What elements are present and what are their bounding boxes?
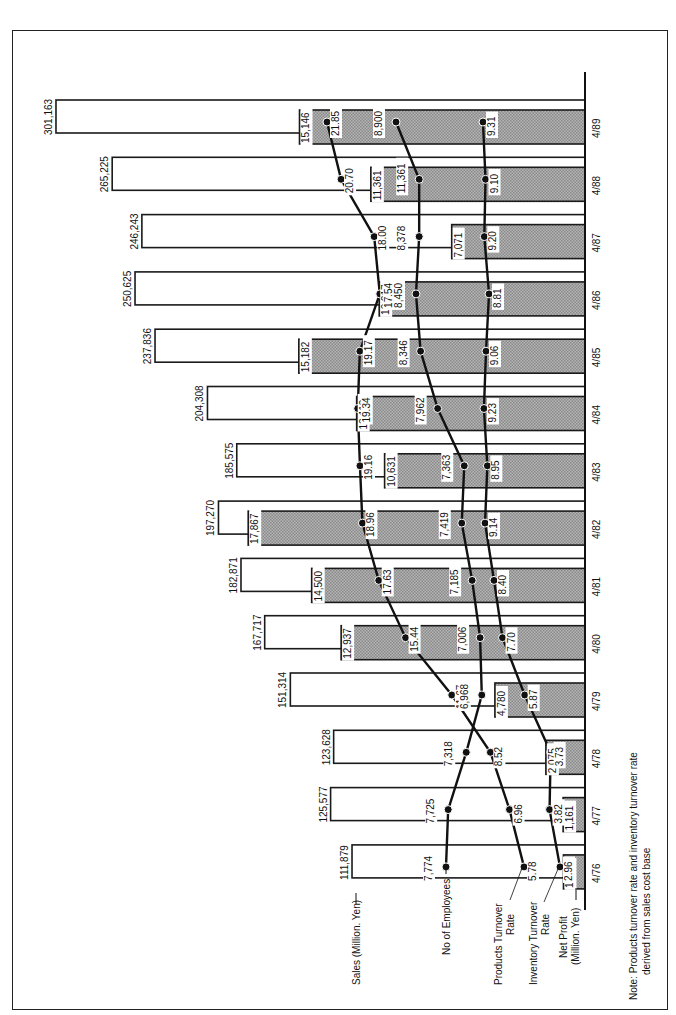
sales-value: 301,163 (43, 98, 54, 135)
svg-text:7,774: 7,774 (423, 855, 434, 880)
svg-text:9.31: 9.31 (486, 116, 497, 136)
employees-point (478, 691, 486, 699)
svg-text:7,419: 7,419 (439, 512, 450, 537)
inventory-turnover-value: 5.87 (528, 685, 540, 711)
profit-value: 1,161 (564, 801, 576, 833)
note-line-2: derived from sales cost base (641, 847, 652, 975)
svg-text:15.44: 15.44 (409, 626, 420, 651)
employees-value: 7,363 (441, 450, 453, 482)
svg-text:8.40: 8.40 (497, 574, 508, 594)
svg-text:265,225: 265,225 (99, 156, 110, 193)
inventory-turnover-value: 9.31 (486, 112, 498, 138)
svg-text:8.81: 8.81 (492, 288, 503, 308)
category-label: 4/83 (591, 462, 602, 482)
profit-value: 15,182 (300, 337, 312, 375)
net-profit-bar (248, 511, 585, 545)
svg-text:18.96: 18.96 (365, 512, 376, 537)
svg-text:12,937: 12,937 (342, 628, 353, 659)
svg-text:197,270: 197,270 (205, 500, 216, 537)
legend-profit-1: Net Profit (558, 916, 569, 958)
sales-value: 167,717 (252, 614, 263, 651)
svg-text:4/78: 4/78 (591, 748, 602, 768)
category-label: 4/84 (591, 405, 602, 425)
svg-text:9.23: 9.23 (487, 403, 498, 423)
net-profit-bar (385, 454, 585, 488)
svg-text:19.34: 19.34 (361, 397, 372, 422)
employees-value: 7,419 (439, 507, 451, 539)
products-turnover-value: 19.34 (361, 393, 373, 425)
svg-text:5.87: 5.87 (528, 689, 539, 709)
inventory-turnover-value: 8.81 (492, 284, 504, 310)
employees-value: 8,378 (396, 221, 408, 253)
svg-text:6,968: 6,968 (459, 684, 470, 709)
category-label: 4/80 (591, 634, 602, 654)
net-profit-bar (452, 225, 585, 259)
employees-value: 7,185 (449, 564, 461, 596)
employees-value: 8,900 (373, 106, 385, 138)
svg-text:14,500: 14,500 (313, 570, 324, 601)
sales-value: 246,243 (129, 213, 140, 250)
svg-text:151,314: 151,314 (277, 671, 288, 708)
inventory-turnover-value: 3.82 (553, 799, 565, 825)
products-turnover-value: 8.52 (493, 742, 505, 768)
svg-text:10,631: 10,631 (386, 456, 397, 487)
svg-text:7.70: 7.70 (506, 632, 517, 652)
inventory-turnover-value: 7.70 (506, 627, 518, 653)
employees-value: 7,006 (457, 622, 469, 654)
sales-value: 182,871 (228, 557, 239, 594)
svg-text:4/83: 4/83 (591, 462, 602, 482)
profit-value: 12,937 (342, 623, 354, 661)
svg-text:9.14: 9.14 (488, 517, 499, 537)
inventory-turnover-value: 9.14 (488, 513, 500, 539)
svg-text:3.82: 3.82 (553, 804, 564, 824)
svg-text:4/85: 4/85 (591, 347, 602, 367)
svg-text:7,363: 7,363 (441, 454, 452, 479)
inventory-turnover-value: 2.96 (563, 857, 575, 883)
employees-point (392, 118, 400, 126)
sales-value: 185,575 (224, 442, 235, 479)
svg-text:8,378: 8,378 (396, 225, 407, 250)
products-turnover-value: 18.96 (365, 507, 377, 539)
legend-products-2: Rate (505, 913, 516, 935)
employees-point (458, 519, 466, 527)
employees-point (417, 347, 425, 355)
employees-value: 8,450 (393, 278, 405, 310)
employees-value: 8,346 (398, 335, 410, 367)
products-turnover-value: 21.85 (330, 106, 342, 138)
products-turnover-value: 17.63 (382, 564, 394, 596)
svg-text:21.85: 21.85 (330, 111, 341, 136)
svg-text:8,450: 8,450 (393, 282, 404, 307)
svg-text:204,308: 204,308 (194, 385, 205, 422)
profit-value: 11,361 (372, 165, 384, 203)
svg-text:7,725: 7,725 (425, 798, 436, 823)
category-label: 4/85 (591, 347, 602, 367)
net-profit-bar (495, 683, 585, 717)
employees-value: 7,962 (415, 393, 427, 425)
svg-text:123,628: 123,628 (321, 729, 332, 766)
sales-value: 250,625 (122, 270, 133, 307)
employees-point (444, 806, 452, 814)
svg-text:167,717: 167,717 (252, 614, 263, 651)
products-turnover-value: 15.44 (409, 622, 421, 654)
svg-text:250,625: 250,625 (122, 270, 133, 307)
svg-text:4/86: 4/86 (591, 290, 602, 310)
svg-text:9.06: 9.06 (489, 345, 500, 365)
category-label: 4/79 (591, 691, 602, 711)
svg-text:185,575: 185,575 (224, 442, 235, 479)
category-label: 4/78 (591, 748, 602, 768)
svg-text:11,361: 11,361 (396, 163, 407, 193)
employees-value: 11,361 (396, 158, 408, 196)
products-turnover-value: 19.17 (363, 335, 375, 367)
svg-text:19.17: 19.17 (363, 340, 374, 365)
svg-text:7,318: 7,318 (443, 741, 454, 766)
svg-text:7,185: 7,185 (449, 569, 460, 594)
svg-text:8,346: 8,346 (398, 340, 409, 365)
sales-bar (331, 788, 585, 821)
svg-text:125,577: 125,577 (318, 786, 329, 823)
sales-value: 265,225 (99, 156, 110, 193)
profit-value: 14,500 (313, 566, 325, 604)
category-label: 4/81 (591, 576, 602, 596)
sales-value: 125,577 (318, 786, 329, 823)
sales-bar (352, 845, 585, 878)
products-turnover-value: 18.00 (377, 221, 389, 253)
